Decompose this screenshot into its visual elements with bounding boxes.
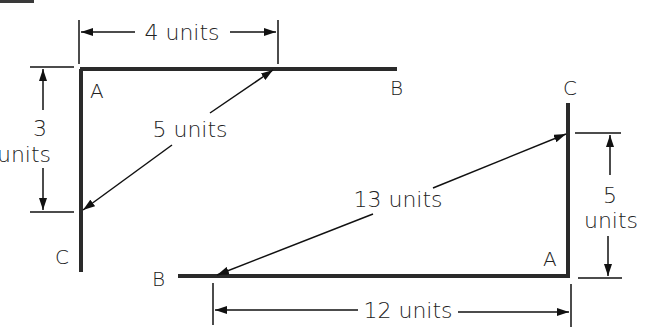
corner-tab [0, 0, 34, 3]
triangle-1-vertex-a: A [90, 79, 104, 103]
hyp-arrow [433, 134, 566, 188]
triangle-1-hypotenuse-label: 5 units [152, 117, 227, 142]
triangle-1-vertex-c: C [55, 245, 69, 269]
triangle-1: 4 units 3 units 5 units A B C [0, 20, 403, 272]
pythagorean-diagram: 4 units 3 units 5 units A B C 12 units 5… [0, 0, 661, 335]
triangle-1-side-ac-number: 3 [33, 116, 47, 141]
triangle-2-side-ab-label: 12 units [363, 298, 452, 323]
hyp-arrow [83, 145, 172, 210]
hyp-arrow [210, 70, 273, 113]
triangle-2-vertex-a: A [543, 247, 557, 271]
triangle-2-side-ac-units: units [584, 208, 638, 233]
triangle-2-side-ac-number: 5 [603, 183, 617, 208]
triangle-1-side-ac-units: units [0, 142, 51, 167]
triangle-2-hypotenuse-label: 13 units [353, 187, 442, 212]
hyp-arrow [217, 214, 373, 275]
triangle-2: 12 units 5 units 13 units A B C [152, 76, 638, 327]
triangle-1-vertex-b: B [390, 76, 403, 100]
triangle-2-vertex-c: C [563, 76, 577, 100]
triangle-2-vertex-b: B [152, 267, 165, 291]
triangle-1-side-ab-label: 4 units [144, 20, 219, 45]
